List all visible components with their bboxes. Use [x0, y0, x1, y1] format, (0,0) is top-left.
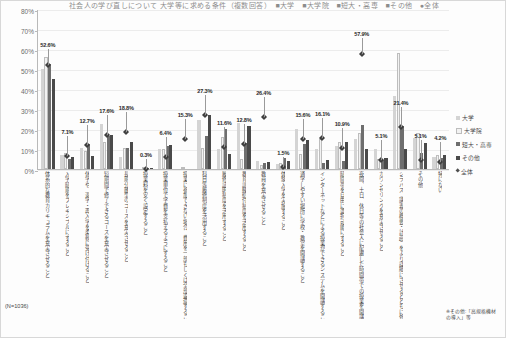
bar [365, 149, 368, 169]
bar [306, 140, 309, 169]
y-axis-tick-label: 70% [21, 28, 34, 35]
leader-line [244, 124, 245, 144]
data-label: 15.3% [178, 112, 193, 118]
legend-item[interactable]: 全体 [456, 167, 506, 176]
leader-line [401, 107, 402, 127]
x-axis-labels: 体系的な教育カリキュラムを充実させること入学時期をフレキシブルにすること休学や、… [37, 171, 449, 321]
x-axis-label-cell: シラバス（講義の概要・計画）をより詳細にさせるとともに外部からも参照可能とするこ… [390, 171, 410, 321]
x-axis-label-text: インターネットなどによる授業ができるシステムを開講すること [319, 171, 325, 319]
x-axis-label-text: 特にない [436, 171, 442, 319]
x-axis-label-cell: 授業単位で学費を支払えるようにすること [155, 171, 175, 321]
data-label: 57.9% [354, 31, 369, 37]
data-label: 18.8% [119, 105, 134, 111]
data-label: 6.4% [160, 130, 172, 136]
legend-label: 大学 [462, 113, 474, 122]
bar [169, 145, 172, 169]
data-label: 5.1% [415, 133, 427, 139]
leader-line [126, 112, 127, 132]
x-axis-label-text: 授業に参加できない場合、費用を一部もしくは全部返還すること [181, 171, 187, 319]
x-axis-label-cell: 休学や、退学・再入学を柔軟に受け付けること [76, 171, 96, 321]
leader-line [362, 38, 363, 54]
x-axis-label-cell: 入学時期をフレキシブルにすること [57, 171, 77, 321]
x-axis-label-text: 教育訓練給付制度を活用すること [240, 171, 246, 319]
data-label: 15.6% [295, 112, 310, 118]
y-axis-tick-label: 0% [25, 168, 34, 175]
x-axis-label-text: 履修証明制度を活用すること [220, 171, 226, 319]
x-axis-label-cell: その他 [410, 171, 430, 321]
x-axis-label-cell: 授業料を安く設定すること [135, 171, 155, 321]
leader-line [303, 119, 304, 139]
legend-swatch-icon [456, 128, 462, 134]
bar [228, 154, 231, 169]
x-axis-label-cell: 科目等履修制度を活用すること [194, 171, 214, 321]
leader-line [146, 159, 147, 169]
x-axis-label-text: 時間帯を自由に選択可能にすること [338, 171, 344, 319]
leader-line [264, 97, 265, 117]
bar [443, 155, 446, 169]
leader-line [67, 136, 68, 156]
bar [267, 162, 270, 169]
y-axis-tick-label: 10% [21, 148, 34, 155]
data-label: 11.6% [217, 120, 232, 126]
legend-item[interactable]: 大学院 [456, 126, 506, 135]
x-axis-label-cell: 教育訓練給付制度を活用すること [233, 171, 253, 321]
y-axis-tick-label: 50% [21, 68, 34, 75]
leader-line [185, 119, 186, 139]
data-label: 21.4% [394, 100, 409, 106]
x-axis-label-cell: 短期間で修了できるコースを充実させること [96, 171, 116, 321]
x-axis-label-text: 体験入学を実施すること [279, 171, 285, 319]
legend-item[interactable]: 大学 [456, 113, 506, 122]
x-axis-label-text: 授業料を安く設定すること [142, 171, 148, 319]
bar-group [38, 10, 58, 169]
legend-item[interactable]: その他 [456, 153, 506, 162]
data-label: 16.1% [315, 111, 330, 117]
legend-label: 大学院 [464, 126, 482, 135]
leader-line [48, 49, 49, 65]
bar [150, 168, 153, 169]
x-axis-label-text: カウンセリングを充実させること [377, 171, 383, 319]
legend-label: 全体 [461, 167, 473, 176]
bar [247, 126, 250, 169]
x-axis-label-text: 長期分散型のコースを充実させること [122, 171, 128, 319]
bar [404, 149, 407, 169]
x-axis-label-cell: 授業に参加できない場合、費用を一部もしくは全部返還すること [174, 171, 194, 321]
leader-line [381, 140, 382, 160]
leader-line [166, 137, 167, 157]
bar-group [97, 10, 117, 169]
bar [384, 158, 387, 169]
x-axis-label-cell: 体系的な教育カリキュラムを充実させること [37, 171, 57, 321]
legend-swatch-icon [456, 116, 460, 120]
x-axis-label-text: その他 [417, 171, 423, 319]
bar-group [116, 10, 136, 169]
bar [71, 157, 74, 169]
bar-group [312, 10, 332, 169]
leader-line [224, 127, 225, 147]
x-axis-label-text: 体系的な教育カリキュラムを充実させること [44, 171, 50, 319]
data-label: 7.1% [61, 129, 73, 135]
bar [181, 167, 184, 169]
data-label: 4.2% [434, 135, 446, 141]
leader-line [322, 118, 323, 138]
x-axis-label-text: 授業単位で学費を支払えるようにすること [162, 171, 168, 319]
x-axis-label-text: シラバス（講義の概要・計画）をより詳細にさせるとともに外部からも参照可能とするこ… [397, 171, 403, 319]
bar-group [293, 10, 313, 169]
x-axis-label-cell: 体験入学を実施すること [273, 171, 293, 321]
data-label: 1.5% [277, 150, 289, 156]
x-axis-label-text: 夜間、土日、休日等の社会人に配慮した時間帯での授業を開講していること [358, 171, 364, 319]
leader-line [107, 115, 108, 135]
x-axis-label-cell: カウンセリングを充実させること [371, 171, 391, 321]
legend-item[interactable]: 短大・高専 [456, 140, 506, 149]
chart-title-clipped: 社会人の学び直しについて 大学等に求める条件（複数回答） ■大学 ■大学院 ■短… [1, 1, 506, 10]
data-label: 10.9% [335, 121, 350, 127]
bar [208, 115, 211, 169]
x-axis-label-cell: 時間帯を自由に選択可能にすること [331, 171, 351, 321]
x-axis-label-cell: 通学しやすい場所に学校・教室を開講すること [292, 171, 312, 321]
bar [287, 161, 290, 169]
leader-line [87, 125, 88, 145]
x-axis-label-text: 教員を充実させること [260, 171, 266, 319]
bar-group [175, 10, 195, 169]
x-axis-label-cell: 履修証明制度を活用すること [214, 171, 234, 321]
data-label: 0.3% [140, 152, 152, 158]
y-axis-tick-label: 80% [21, 8, 34, 15]
leader-line [342, 128, 343, 148]
